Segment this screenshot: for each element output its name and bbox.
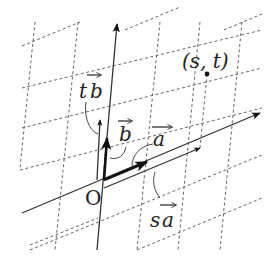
grid-line xyxy=(224,14,262,30)
b-leader-curve xyxy=(110,147,126,159)
point-label: (s, t) xyxy=(182,49,229,73)
grid-line xyxy=(30,155,262,250)
vector-decomposition-diagram: t b b a s a O (s, t) xyxy=(0,0,279,269)
b-axis-line xyxy=(97,24,117,250)
grid-line xyxy=(30,218,98,245)
vector-sa-arrow xyxy=(104,148,200,188)
grid-line xyxy=(22,22,80,46)
grid-line xyxy=(20,108,262,170)
label-tb-t: t xyxy=(79,79,88,103)
vector-a-arrow xyxy=(104,162,147,180)
grid-line xyxy=(125,7,180,30)
origin-label: O xyxy=(85,186,101,210)
grid-line xyxy=(55,22,78,250)
tb-leader-curve xyxy=(86,102,99,134)
label-sa-s: s xyxy=(150,208,160,232)
label-b: b xyxy=(119,122,132,146)
sa-leader-curve xyxy=(154,172,160,198)
grid-lines-a-direction xyxy=(20,7,262,250)
grid-line xyxy=(22,68,262,128)
label-a: a xyxy=(153,127,165,151)
label-sa-a: a xyxy=(162,208,174,232)
a-axis-line xyxy=(22,113,260,213)
diagram-svg: t b b a s a O (s, t) xyxy=(0,0,279,269)
label-tb-b: b xyxy=(90,79,103,103)
vector-b-arrow xyxy=(104,138,107,180)
